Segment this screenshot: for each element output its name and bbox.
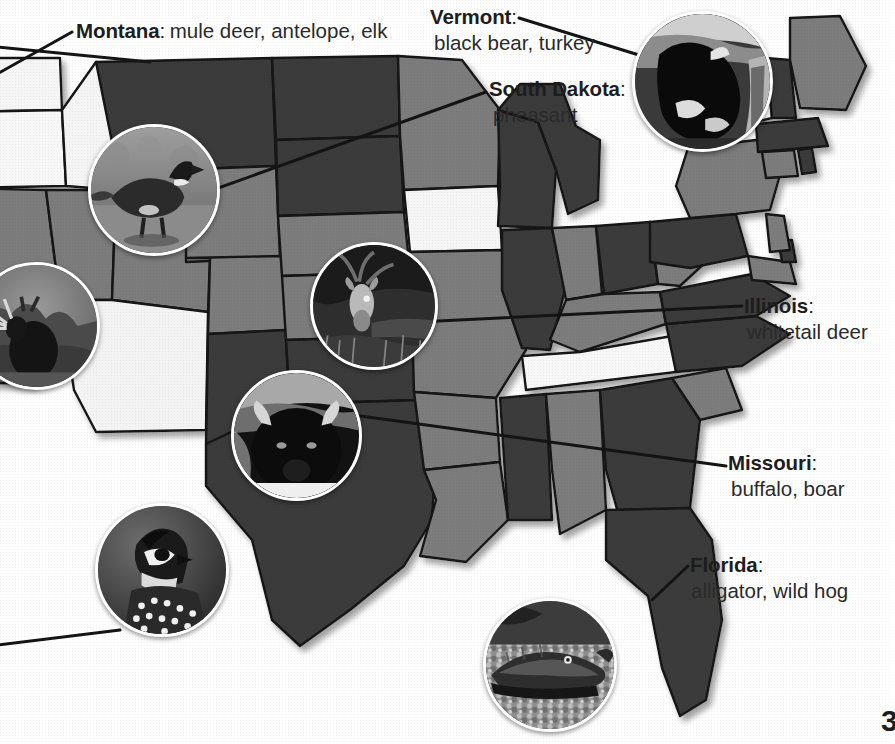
colon-south-dakota: : bbox=[620, 77, 626, 100]
animals-illinois: whitetail deer bbox=[747, 319, 868, 345]
photo-pheasant bbox=[88, 124, 220, 256]
colon-vermont: : bbox=[511, 5, 517, 28]
callout-illinois: Illinois: whitetail deer bbox=[744, 293, 868, 345]
animals-vermont: black bear, turkey bbox=[434, 30, 595, 56]
photo-quail bbox=[95, 503, 229, 637]
page-number: 3 bbox=[881, 704, 895, 738]
colon-missouri: : bbox=[812, 451, 818, 474]
callout-south-dakota: South Dakota: pheasant bbox=[489, 76, 626, 128]
photo-buffalo bbox=[231, 370, 362, 501]
callout-florida: Florida: alligator, wild hog bbox=[690, 552, 848, 604]
animals-florida: alligator, wild hog bbox=[691, 578, 848, 604]
state-label-illinois: Illinois bbox=[744, 294, 808, 317]
animals-missouri: buffalo, boar bbox=[731, 476, 845, 502]
colon-illinois: : bbox=[808, 294, 814, 317]
state-label-florida: Florida bbox=[690, 553, 758, 576]
state-label-south-dakota: South Dakota bbox=[489, 77, 620, 100]
colon-florida: : bbox=[758, 553, 764, 576]
photo-black-bear bbox=[632, 11, 773, 152]
state-label-vermont: Vermont bbox=[430, 5, 511, 28]
state-label-montana: Montana bbox=[76, 19, 160, 42]
animals-south-dakota: pheasant bbox=[493, 102, 626, 128]
colon-montana: : bbox=[160, 19, 166, 42]
photo-deer bbox=[310, 242, 438, 370]
photo-alligator bbox=[483, 598, 617, 732]
animals-montana: mule deer, antelope, elk bbox=[170, 19, 388, 42]
callout-missouri: Missouri: buffalo, boar bbox=[728, 450, 845, 502]
callout-montana: Montana: mule deer, antelope, elk bbox=[76, 18, 387, 44]
state-label-missouri: Missouri bbox=[728, 451, 812, 474]
callout-vermont: Vermont: black bear, turkey bbox=[430, 4, 595, 56]
